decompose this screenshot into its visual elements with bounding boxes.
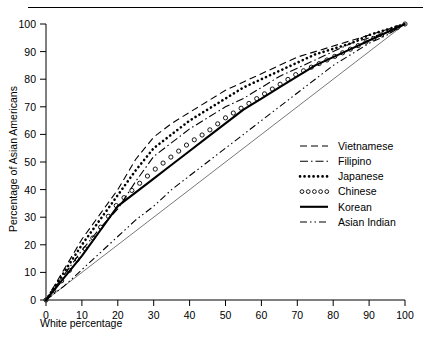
- legend-label: Asian Indian: [338, 216, 396, 228]
- legend-swatch-marker: [325, 190, 329, 194]
- legend-swatch-marker: [319, 190, 323, 194]
- legend-item-asian-indian[interactable]: Asian Indian: [300, 216, 396, 228]
- legend-swatch-marker: [313, 190, 317, 194]
- series-marker: [184, 143, 188, 147]
- y-tick-label: 70: [24, 101, 36, 113]
- y-tick-label: 60: [24, 128, 36, 140]
- series-marker: [231, 111, 235, 115]
- x-tick-label: 70: [291, 309, 303, 321]
- legend-label: Vietnamese: [338, 140, 393, 152]
- y-axis-ticks: [40, 24, 46, 300]
- y-tick-label: 0: [30, 294, 36, 306]
- series-marker: [169, 155, 173, 159]
- legend: VietnameseFilipinoJapaneseChineseKoreanA…: [300, 140, 396, 228]
- series-marker: [130, 188, 134, 192]
- series-marker: [138, 181, 142, 185]
- legend-label: Chinese: [338, 185, 377, 197]
- series-marker: [192, 138, 196, 142]
- x-tick-label: 100: [396, 309, 414, 321]
- x-tick-label: 40: [184, 309, 196, 321]
- series-marker: [161, 161, 165, 165]
- y-tick-label: 80: [24, 73, 36, 85]
- legend-item-japanese[interactable]: Japanese: [300, 170, 384, 182]
- legend-swatch-marker: [300, 190, 304, 194]
- series-marker: [145, 174, 149, 178]
- legend-item-filipino[interactable]: Filipino: [300, 155, 371, 167]
- y-tick-label: 50: [24, 156, 36, 168]
- legend-label: Japanese: [338, 170, 384, 182]
- legend-swatch-marker: [306, 190, 310, 194]
- y-tick-label: 30: [24, 211, 36, 223]
- x-axis-ticks: [46, 300, 405, 306]
- x-tick-label: 30: [148, 309, 160, 321]
- series-marker: [216, 122, 220, 126]
- legend-item-vietnamese[interactable]: Vietnamese: [300, 140, 393, 152]
- y-axis-title: Percentage of Asian Americans: [7, 86, 19, 232]
- legend-label: Korean: [338, 201, 372, 213]
- chart-svg: 0102030405060708090100 01020304050607080…: [0, 0, 431, 340]
- y-tick-label: 20: [24, 239, 36, 251]
- series-marker: [177, 149, 181, 153]
- figure-container: 0102030405060708090100 01020304050607080…: [0, 0, 431, 340]
- x-tick-label: 50: [220, 309, 232, 321]
- legend-label: Filipino: [338, 155, 371, 167]
- x-tick-label: 90: [363, 309, 375, 321]
- y-tick-label: 40: [24, 184, 36, 196]
- series-marker: [208, 128, 212, 132]
- y-tick-label: 100: [18, 18, 36, 30]
- y-axis-tick-labels: 0102030405060708090100: [18, 18, 36, 306]
- x-tick-label: 80: [327, 309, 339, 321]
- series-marker: [153, 167, 157, 171]
- series-marker: [223, 116, 227, 120]
- y-tick-label: 10: [24, 266, 36, 278]
- y-tick-label: 90: [24, 46, 36, 58]
- legend-item-korean[interactable]: Korean: [300, 201, 372, 213]
- legend-item-chinese[interactable]: Chinese: [300, 185, 377, 197]
- series-marker: [200, 133, 204, 137]
- x-axis-title: White percentage: [40, 317, 122, 329]
- x-tick-label: 60: [256, 309, 268, 321]
